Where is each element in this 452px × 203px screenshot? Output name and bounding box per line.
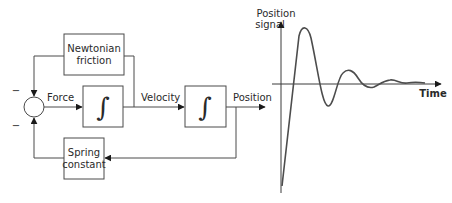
minus-sign-top: − bbox=[12, 85, 20, 96]
x-axis-label: Time bbox=[419, 88, 447, 99]
force-label: Force bbox=[47, 92, 74, 103]
integral-symbol-1: ∫ bbox=[96, 92, 110, 122]
y-axis-label-line1: Position bbox=[257, 8, 296, 19]
newtonian-friction-block: Newtonian friction bbox=[64, 34, 124, 75]
friction-label-line1: Newtonian bbox=[67, 43, 120, 54]
friction-input-wire bbox=[124, 56, 134, 107]
minus-sign-bottom: − bbox=[12, 120, 20, 131]
velocity-label: Velocity bbox=[141, 92, 180, 103]
friction-feedback-arrow bbox=[34, 56, 64, 96]
y-axis-label-line2: signal bbox=[255, 19, 285, 30]
diagram-canvas: − − Force ∫ Velocity Newtonian friction … bbox=[0, 0, 452, 203]
spring-constant-block: Spring constant bbox=[62, 138, 106, 179]
spring-label-line1: Spring bbox=[68, 147, 100, 158]
block-diagram: − − Force ∫ Velocity Newtonian friction … bbox=[12, 34, 272, 179]
position-label: Position bbox=[233, 92, 272, 103]
integral-symbol-2: ∫ bbox=[198, 92, 212, 122]
position-chart: Position signal Time bbox=[255, 8, 447, 193]
damped-oscillation-curve bbox=[282, 28, 425, 186]
integrator-block-1: ∫ bbox=[83, 86, 123, 127]
summing-junction: − − bbox=[12, 85, 44, 131]
friction-label-line2: friction bbox=[76, 55, 111, 66]
integrator-block-2: ∫ bbox=[185, 86, 226, 127]
spring-label-line2: constant bbox=[62, 159, 106, 170]
spring-feedback-arrow bbox=[34, 118, 64, 158]
